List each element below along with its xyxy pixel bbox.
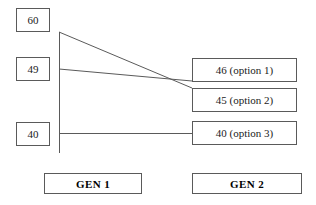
gen2-node-option-2-label: 45 (option 2) [216,95,273,106]
gen2-node-option-3-label: 40 (option 3) [216,128,273,139]
gen2-node-option-3[interactable]: 40 (option 3) [192,121,297,145]
gen2-node-option-1[interactable]: 46 (option 1) [192,58,297,82]
gen2-node-option-1-label: 46 (option 1) [216,65,273,76]
gen2-node-option-2[interactable]: 45 (option 2) [192,88,297,112]
gen1-node-49-label: 49 [28,64,39,75]
gen1-node-40-label: 40 [28,129,39,140]
gen2-column-label-text: GEN 2 [230,178,264,190]
edge-49-to-option1 [59,69,192,81]
gen1-node-49[interactable]: 49 [16,57,50,81]
gen1-node-60[interactable]: 60 [16,8,50,32]
gen2-column-label: GEN 2 [192,173,302,194]
gen1-node-40[interactable]: 40 [16,122,50,146]
gen1-column-label-text: GEN 1 [76,178,110,190]
gen1-column-label: GEN 1 [44,173,142,194]
diagram-canvas: 60 49 40 46 (option 1) 45 (option 2) 40 … [0,0,316,205]
gen1-node-60-label: 60 [28,15,39,26]
